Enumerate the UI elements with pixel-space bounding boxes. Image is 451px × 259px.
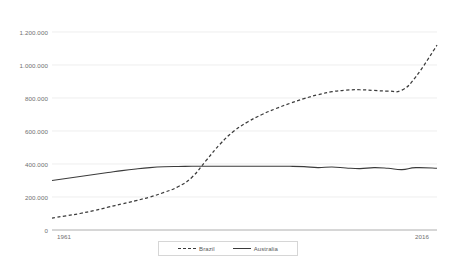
data-series-group [52, 45, 437, 218]
series-line-brazil [52, 45, 437, 218]
legend-item-australia: Australia [233, 246, 278, 252]
legend-label: Australia [254, 246, 278, 252]
legend-item-brazil: Brazil [178, 246, 215, 252]
chart-legend: Brazil Australia [158, 241, 298, 256]
legend-swatch-dashed-icon [178, 248, 196, 249]
legend-swatch-solid-icon [233, 248, 251, 249]
line-chart: 1.200.000 1.000.000 800.000 600.000 400.… [0, 0, 451, 259]
plot-area [0, 0, 451, 259]
legend-label: Brazil [199, 246, 215, 252]
series-line-australia [52, 166, 437, 180]
